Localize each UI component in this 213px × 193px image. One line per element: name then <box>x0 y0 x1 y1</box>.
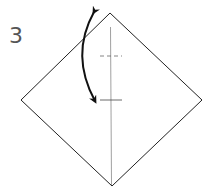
origami-diagram <box>0 0 213 193</box>
